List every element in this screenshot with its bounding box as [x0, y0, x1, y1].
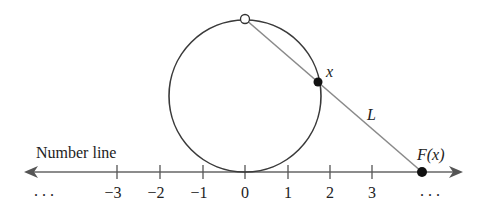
point-x-label: x	[325, 63, 333, 80]
number-line-label: Number line	[36, 144, 116, 161]
F-of-x-label: F(x)	[416, 146, 445, 164]
point-x	[314, 78, 323, 87]
tick-label-neg2: −2	[147, 184, 164, 201]
unit-circle	[169, 20, 321, 172]
tick-label-1: 1	[284, 184, 292, 201]
right-ellipsis: . . .	[420, 182, 440, 199]
tick-label-2: 2	[326, 184, 334, 201]
tick-label-neg1: −1	[190, 184, 207, 201]
tick-label-neg3: −3	[104, 184, 121, 201]
tick-label-0: 0	[241, 184, 249, 201]
line-L-label: L	[366, 106, 376, 123]
stereographic-projection-diagram: Number line . . . . . . −3 −2 −1 0 1 2 3…	[0, 0, 487, 216]
line-L	[245, 19, 422, 172]
north-pole-open-point	[241, 15, 250, 24]
tick-label-3: 3	[368, 184, 376, 201]
point-F-of-x	[417, 167, 427, 177]
left-ellipsis: . . .	[34, 182, 54, 199]
